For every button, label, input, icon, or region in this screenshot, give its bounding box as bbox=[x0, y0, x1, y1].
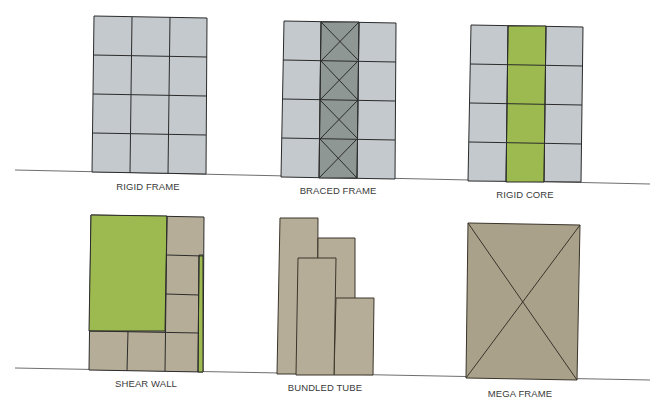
rigid-frame-building bbox=[92, 16, 207, 174]
label-rigid-core: RIGID CORE bbox=[496, 189, 553, 200]
label-rigid-frame: RIGID FRAME bbox=[116, 181, 179, 192]
label-braced-frame: BRACED FRAME bbox=[300, 185, 377, 196]
shear-wall-building bbox=[89, 215, 204, 372]
rigid-core-building bbox=[468, 25, 583, 182]
mega-frame-building bbox=[466, 223, 580, 380]
bundled-tube-building bbox=[277, 218, 374, 375]
braced-frame-building bbox=[281, 21, 396, 179]
structural-systems-diagram bbox=[0, 0, 668, 407]
label-bundled-tube: BUNDLED TUBE bbox=[288, 382, 362, 393]
label-shear-wall: SHEAR WALL bbox=[115, 378, 177, 389]
label-mega-frame: MEGA FRAME bbox=[488, 388, 552, 399]
